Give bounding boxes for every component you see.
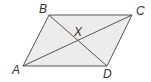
vertex-label-b: B [39, 2, 47, 16]
vertex-label-a: A [11, 63, 20, 77]
vertex-label-c: C [136, 4, 145, 18]
parallelogram-diagram: A B C D X [0, 0, 151, 82]
vertex-label-d: D [103, 67, 112, 81]
intersection-label-x: X [73, 25, 83, 39]
